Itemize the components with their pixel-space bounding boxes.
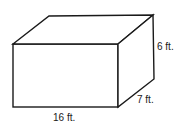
front-face: [13, 44, 118, 107]
prism-diagram: 6 ft. 7 ft. 16 ft.: [0, 0, 183, 125]
height-label: 6 ft.: [157, 41, 174, 52]
width-label: 7 ft.: [137, 94, 154, 105]
length-label: 16 ft.: [53, 112, 75, 123]
prism-shape: [13, 15, 154, 107]
